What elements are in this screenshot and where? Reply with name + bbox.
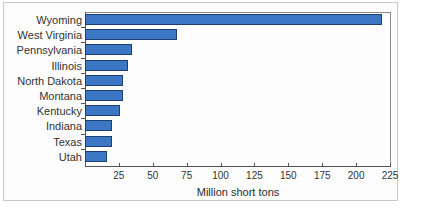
x-axis-tick-label: 225 [370,170,410,181]
bar [85,29,177,40]
x-axis-title: Million short tons [85,186,391,198]
category-label: Indiana [0,121,82,132]
x-axis-tick [254,163,255,167]
x-axis-tick [119,163,120,167]
y-axis-tick [81,118,85,119]
y-axis-tick [81,88,85,89]
y-axis-tick [81,42,85,43]
y-axis-tick [81,27,85,28]
x-axis-line [85,166,391,167]
category-label: Utah [0,152,82,163]
plot-top-border [85,12,391,13]
category-label: Pennsylvania [0,45,82,56]
x-axis-tick [153,163,154,167]
x-axis-tick [187,163,188,167]
x-axis-tick [288,163,289,167]
bar [85,90,123,101]
category-label: Montana [0,91,82,102]
y-axis-tick [81,149,85,150]
category-label: Wyoming [0,15,82,26]
bar [85,75,123,86]
x-axis-tick [221,163,222,167]
bar [85,44,132,55]
bar-chart: WyomingWest VirginiaPennsylvaniaIllinois… [0,0,423,210]
y-axis-tick [81,58,85,59]
category-label: North Dakota [0,76,82,87]
plot-right-border [390,12,391,167]
bar [85,105,120,116]
bar [85,136,112,147]
bar [85,14,382,25]
y-axis-tick [81,134,85,135]
category-label: Illinois [0,61,82,72]
y-axis-tick [81,103,85,104]
category-label: Kentucky [0,106,82,117]
x-axis-tick [356,163,357,167]
x-axis-tick [322,163,323,167]
x-axis-tick [390,163,391,167]
bar [85,151,107,162]
category-label: West Virginia [0,30,82,41]
bar [85,120,112,131]
y-axis-tick [81,73,85,74]
category-label: Texas [0,137,82,148]
bar [85,60,128,71]
